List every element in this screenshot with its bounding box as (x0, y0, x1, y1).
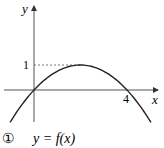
tick-label-x-4: 4 (123, 92, 129, 106)
graph: y x 1 4 ① y = f(x) (0, 0, 164, 148)
caption-text: y = f(x) (31, 131, 75, 147)
x-axis-label: x (151, 92, 158, 107)
caption-number: ① (2, 131, 15, 146)
y-axis-label: y (20, 1, 28, 16)
parabola-curve (10, 65, 151, 122)
tick-label-y-1: 1 (23, 58, 29, 72)
